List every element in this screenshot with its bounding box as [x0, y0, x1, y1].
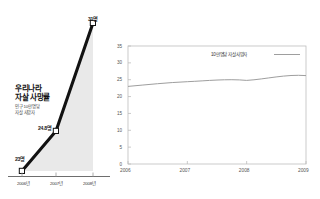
left-chart-title-line1: 우리나라	[15, 84, 50, 93]
right-chart-plot	[104, 32, 320, 199]
infographic-root: 31명 24.8명 23명 우리나라 자살 사망률 인구 10만명당 자살 사망…	[0, 0, 320, 199]
right-xtick-label-2009: 2009	[298, 168, 309, 173]
left-value-label-2007: 24.8명	[38, 124, 52, 131]
left-chart-subtitle-line2: 자살 사망자	[15, 110, 50, 115]
right-ytick-label-5: 5	[110, 145, 122, 150]
right-xtick-label-2007: 2007	[180, 168, 191, 173]
right-suicide-deaths-line-chart: 35 30 25 20 15 10 5 0 2006 2007 2008 200…	[104, 32, 320, 199]
right-ytick-label-15: 15	[110, 111, 122, 116]
left-xtick-label-2006: 2006년	[17, 180, 30, 186]
right-plot-frame	[128, 46, 306, 164]
right-ytick-label-0: 0	[110, 162, 122, 167]
left-chart-title-block: 우리나라 자살 사망률 인구 10만명당 자살 사망자	[15, 84, 50, 115]
right-legend-label: 10만명당 자살사망자	[211, 51, 247, 57]
right-ytick-label-25: 25	[110, 77, 122, 82]
right-ytick-label-10: 10	[110, 128, 122, 133]
left-xtick-label-2007: 2007년	[50, 180, 63, 186]
right-xtick-label-2006: 2006	[120, 168, 131, 173]
left-suicide-rate-chart: 31명 24.8명 23명 우리나라 자살 사망률 인구 10만명당 자살 사망…	[0, 0, 118, 199]
left-marker-2007	[53, 128, 58, 133]
left-value-label-2008: 31명	[88, 15, 98, 22]
right-ytick-label-30: 30	[110, 60, 122, 65]
left-value-label-2006: 23명	[15, 155, 25, 162]
right-ytick-label-20: 20	[110, 94, 122, 99]
right-ytick-label-35: 35	[110, 44, 122, 49]
left-chart-title-line2: 자살 사망률	[15, 93, 50, 102]
left-xtick-label-2008: 2008년	[83, 180, 96, 186]
right-xtick-label-2008: 2008	[239, 168, 250, 173]
